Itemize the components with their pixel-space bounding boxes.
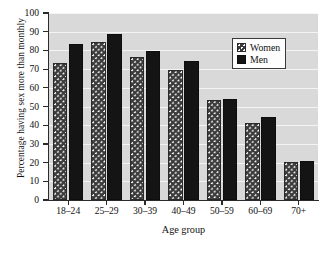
y-axis-tick-label: 60 bbox=[0, 83, 39, 93]
bar-men-18-24 bbox=[69, 44, 84, 200]
y-axis-tick-label: 100 bbox=[0, 8, 39, 18]
women-pattern-swatch bbox=[237, 43, 246, 52]
gridline bbox=[49, 32, 318, 33]
y-axis-spine bbox=[48, 12, 49, 201]
y-axis-tick-label: 10 bbox=[0, 176, 39, 186]
y-axis-tick bbox=[43, 181, 48, 182]
legend-entry-women: Women bbox=[237, 41, 280, 53]
y-axis-tick bbox=[43, 12, 48, 13]
y-axis-tick bbox=[43, 199, 48, 200]
bar-men-30-39 bbox=[146, 51, 161, 200]
bar-men-60-69 bbox=[261, 117, 276, 200]
x-axis-tick-label: 70+ bbox=[269, 205, 329, 216]
bar-men-50-59 bbox=[223, 99, 238, 200]
bar-chart-figure: Percentage having sex more than monthly … bbox=[0, 0, 335, 254]
y-axis-tick-label: 90 bbox=[0, 27, 39, 37]
chart-legend: Women Men bbox=[232, 38, 286, 69]
legend-entry-men: Men bbox=[237, 53, 280, 65]
y-axis-tick-label: 50 bbox=[0, 102, 39, 112]
y-axis-tick bbox=[43, 69, 48, 70]
y-axis-tick-label: 70 bbox=[0, 64, 39, 74]
gridline bbox=[49, 13, 318, 14]
bar-women-50-59 bbox=[207, 100, 222, 200]
y-axis-tick bbox=[43, 87, 48, 88]
y-axis-tick bbox=[43, 106, 48, 107]
y-axis-tick bbox=[43, 143, 48, 144]
x-axis-title: Age group bbox=[49, 224, 318, 235]
bar-men-25-29 bbox=[107, 34, 122, 200]
y-axis-tick bbox=[43, 162, 48, 163]
bar-women-25-29 bbox=[91, 42, 106, 200]
y-axis-tick-label: 0 bbox=[0, 195, 39, 205]
y-axis-tick bbox=[43, 50, 48, 51]
men-solid-swatch bbox=[237, 55, 246, 64]
y-axis-tick-label: 80 bbox=[0, 45, 39, 55]
y-axis-tick-label: 20 bbox=[0, 158, 39, 168]
y-axis-tick-label: 40 bbox=[0, 120, 39, 130]
y-axis-tick bbox=[43, 125, 48, 126]
y-axis-tick bbox=[43, 31, 48, 32]
bar-men-40-49 bbox=[184, 61, 199, 200]
bar-women-60-69 bbox=[245, 123, 260, 200]
legend-label-women: Women bbox=[250, 42, 280, 53]
bar-women-18-24 bbox=[53, 63, 68, 200]
bar-women-40-49 bbox=[168, 70, 183, 200]
bar-men-70+ bbox=[300, 161, 315, 200]
legend-label-men: Men bbox=[250, 54, 268, 65]
y-axis-tick-label: 30 bbox=[0, 139, 39, 149]
bar-women-70+ bbox=[284, 162, 299, 200]
bar-women-30-39 bbox=[130, 57, 145, 200]
